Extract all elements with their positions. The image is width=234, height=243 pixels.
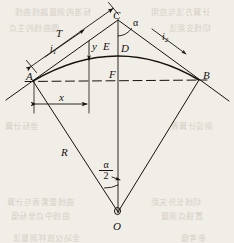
ordinate-label: y [92,41,97,52]
tangent-length-label: T [56,28,62,39]
figure-canvas: 标准的测量路线曲线计算方法与应用圆曲线的主点切线支距法坐标计算测设计算表曲线要素… [0,0,234,243]
point-e-label: E [103,41,110,52]
chainage-i2-label: i2 [162,32,168,44]
point-a-label: A [26,71,33,82]
radius-line-oa [33,81,118,212]
radius-line-ob [118,80,199,212]
chainage-i2-subscript: 2 [165,36,169,44]
alpha-angle-arc [118,29,132,37]
half-alpha-numerator: α [103,159,108,170]
point-o-label: O [113,221,121,232]
chord-ab-dashed [25,80,207,82]
chainage-i2-arrow [152,29,186,54]
half-alpha-angle-arc [105,185,119,188]
half-alpha-fraction: α 2 [99,160,113,181]
abscissa-label: x [59,92,64,103]
forward-tangent-line [118,20,229,101]
circular-arc [33,56,199,81]
chainage-i1-subscript: 1 [53,48,57,56]
point-b-label: B [203,70,210,81]
alpha-angle-label: α [133,18,138,28]
chainage-i1-label: i1 [50,44,56,56]
half-alpha-leader-arrow [112,177,120,180]
curve-diagram-svg [0,0,234,243]
radius-label: R [61,147,68,158]
half-alpha-denominator: 2 [99,170,113,181]
point-d-label: D [121,43,129,54]
point-c-label: C [113,10,120,21]
point-f-label: F [109,69,116,80]
